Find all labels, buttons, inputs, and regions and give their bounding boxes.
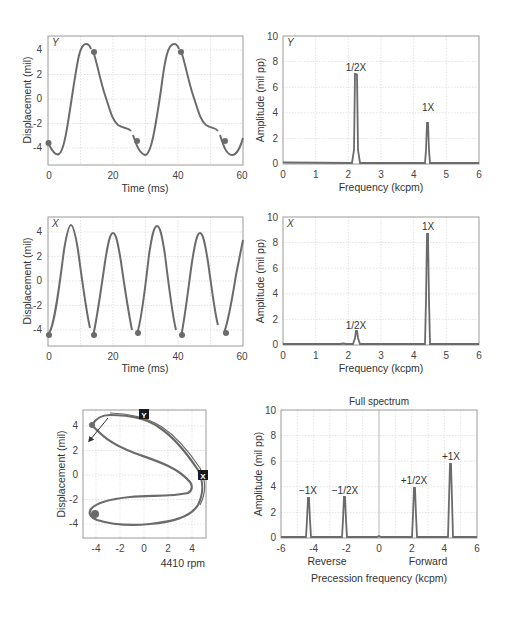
- grid: [283, 36, 479, 164]
- grid: [83, 410, 206, 538]
- y-axis-label: Displacement (mil): [55, 431, 67, 518]
- svg-text:2: 2: [270, 507, 276, 518]
- x-axis-label: Time (ms): [122, 182, 169, 194]
- svg-text:3: 3: [378, 350, 384, 361]
- svg-text:4: 4: [36, 44, 42, 55]
- peak-label-minus-half-x: −1/2X: [332, 485, 359, 496]
- svg-text:2: 2: [272, 314, 278, 325]
- y-axis-label: Displacement (mil): [21, 57, 33, 144]
- svg-text:0: 0: [280, 169, 286, 180]
- svg-text:3: 3: [378, 169, 384, 180]
- reverse-label: Reverse: [307, 555, 346, 567]
- svg-text:6: 6: [476, 169, 482, 180]
- svg-text:2: 2: [36, 251, 42, 262]
- svg-text:4: 4: [411, 350, 417, 361]
- probe-marker-y: Y: [139, 409, 149, 420]
- y-tick-labels: 4 2 0 -2 -4: [69, 420, 78, 529]
- svg-text:-2: -2: [33, 300, 42, 311]
- x-axis-label: Precession frequency (kcpm): [311, 572, 447, 584]
- svg-text:2: 2: [346, 169, 352, 180]
- y-tick-labels: 10 8 6 4 2 0: [267, 31, 279, 169]
- y-axis-label: Displacement (mil): [21, 238, 33, 325]
- y-axis-label: Amplitude (mil pp): [254, 58, 266, 143]
- svg-text:0: 0: [141, 543, 147, 554]
- svg-text:-2: -2: [342, 543, 351, 554]
- x-tick-labels: -4 -2 0 2 4: [92, 543, 196, 554]
- panel-y-time: Y 4 2 0 -2 -4 0 20 40 60 Time (ms) Displ…: [21, 36, 248, 194]
- svg-text:0: 0: [46, 351, 52, 362]
- speed-label: 4410 rpm: [161, 557, 206, 569]
- figure: Y 4 2 0 -2 -4 0 20 40 60 Time (ms) Displ…: [0, 0, 506, 617]
- x-tick-labels: 0 1 2 3 4 5 6: [280, 169, 482, 180]
- svg-text:0: 0: [272, 339, 278, 350]
- panel-orbit: Y X 4 2 0 -2 -4 -4 -2 0 2 4 4410 rpm Dis…: [55, 409, 208, 569]
- svg-text:2: 2: [72, 445, 78, 456]
- x-tick-labels: 0 20 40 60: [46, 351, 248, 362]
- chart-title: Full spectrum: [349, 396, 409, 407]
- y-axis-label: Amplitude (mil pp): [254, 239, 266, 324]
- svg-text:0: 0: [36, 93, 42, 104]
- svg-text:1: 1: [313, 350, 319, 361]
- svg-text:2: 2: [36, 69, 42, 80]
- x-tick-labels: 0 20 40 60: [46, 170, 248, 181]
- x-axis-label: Frequency (kcpm): [339, 362, 424, 374]
- svg-text:40: 40: [172, 170, 184, 181]
- svg-text:0: 0: [270, 532, 276, 543]
- x-waveform-trace: [49, 225, 243, 336]
- svg-text:-4: -4: [309, 543, 318, 554]
- x-axis-label: Time (ms): [122, 362, 169, 374]
- x-axis-label: Frequency (kcpm): [339, 181, 424, 193]
- svg-text:5: 5: [444, 169, 450, 180]
- svg-text:6: 6: [272, 263, 278, 274]
- svg-text:10: 10: [265, 405, 277, 416]
- svg-text:4: 4: [442, 543, 448, 554]
- panel-x-spectrum: X 1/2X 1X 10 8 6 4 2 0 0 1 2 3 4 5 6 Fre…: [254, 212, 482, 374]
- svg-text:6: 6: [270, 456, 276, 467]
- svg-text:8: 8: [272, 56, 278, 67]
- channel-label-y: Y: [52, 37, 60, 48]
- y-tick-labels: 4 2 0 -2 -4: [33, 44, 42, 153]
- svg-text:0: 0: [46, 170, 52, 181]
- svg-text:4: 4: [189, 543, 195, 554]
- svg-text:10: 10: [267, 31, 279, 42]
- peak-label-half-x: 1/2X: [346, 320, 367, 331]
- svg-text:-2: -2: [116, 543, 125, 554]
- peak-label-minus-1x: −1X: [299, 485, 317, 496]
- svg-text:6: 6: [476, 350, 482, 361]
- svg-text:4: 4: [272, 107, 278, 118]
- svg-text:2: 2: [272, 133, 278, 144]
- svg-text:8: 8: [270, 430, 276, 441]
- orbit-start-marker: [89, 422, 95, 428]
- svg-text:-2: -2: [33, 118, 42, 129]
- orbit-trace: [90, 415, 202, 525]
- svg-text:-6: -6: [277, 543, 286, 554]
- grid: [48, 36, 243, 165]
- x-tick-labels: 0 1 2 3 4 5 6: [280, 350, 482, 361]
- panel-x-time: X 4 2 0 -2 -4 0 20 40 60 Time (ms) Displ…: [21, 217, 248, 374]
- svg-text:0: 0: [36, 275, 42, 286]
- peak-label-1x: 1X: [422, 102, 435, 113]
- peak-label-plus-1x: +1X: [442, 451, 460, 462]
- svg-text:40: 40: [172, 351, 184, 362]
- svg-text:60: 60: [236, 170, 248, 181]
- svg-text:10: 10: [267, 212, 279, 223]
- y-tick-labels: 4 2 0 -2 -4: [33, 226, 42, 335]
- channel-label-x: X: [286, 218, 294, 229]
- grid: [283, 217, 479, 345]
- svg-text:0: 0: [72, 469, 78, 480]
- forward-label: Forward: [409, 555, 448, 567]
- svg-text:4: 4: [72, 420, 78, 431]
- svg-text:0: 0: [376, 543, 382, 554]
- orbit-keyphasor-marker: [91, 510, 99, 518]
- svg-text:60: 60: [236, 351, 248, 362]
- peak-label-1x: 1X: [422, 221, 435, 232]
- svg-text:Y: Y: [141, 411, 147, 420]
- svg-text:2: 2: [409, 543, 415, 554]
- svg-text:X: X: [200, 472, 206, 481]
- svg-text:4: 4: [36, 226, 42, 237]
- svg-text:6: 6: [272, 82, 278, 93]
- svg-text:20: 20: [107, 351, 119, 362]
- svg-text:-4: -4: [33, 324, 42, 335]
- peak-label-plus-half-x: +1/2X: [401, 475, 428, 486]
- plot-frame: [83, 410, 206, 538]
